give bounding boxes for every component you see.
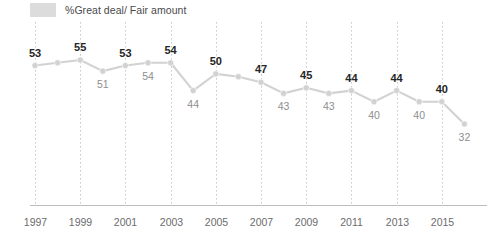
data-point-marker xyxy=(145,60,151,66)
plot-area: 535551535454445047434543444044404032 199… xyxy=(0,0,498,240)
data-point-label: 53 xyxy=(119,47,131,59)
x-tick-label: 2009 xyxy=(295,216,319,228)
data-point-marker xyxy=(77,57,83,63)
data-point-marker xyxy=(439,99,445,105)
data-point-label: 40 xyxy=(368,109,380,121)
data-point-marker xyxy=(303,85,309,91)
x-tick-label: 2001 xyxy=(114,216,138,228)
data-point-marker xyxy=(168,60,174,66)
data-point-label: 45 xyxy=(300,69,312,81)
x-tick-label: 2013 xyxy=(386,216,410,228)
data-point-label: 44 xyxy=(187,98,199,110)
data-point-label: 54 xyxy=(164,44,177,56)
data-point-marker xyxy=(281,90,287,96)
data-point-marker xyxy=(326,90,332,96)
x-tick-label: 1999 xyxy=(69,216,93,228)
data-point-marker xyxy=(371,99,377,105)
x-tick-label: 2015 xyxy=(431,216,455,228)
x-tick-label: 2003 xyxy=(160,216,184,228)
line-chart: %Great deal/ Fair amount 535551535454445… xyxy=(0,0,498,240)
data-point-marker xyxy=(32,62,38,68)
data-point-label: 54 xyxy=(142,70,154,82)
data-point-labels: 535551535454445047434543444044404032 xyxy=(29,41,471,143)
data-point-marker xyxy=(461,121,467,127)
data-point-marker xyxy=(122,62,128,68)
data-point-label: 44 xyxy=(390,72,403,84)
gridlines xyxy=(36,22,443,205)
series-path xyxy=(35,60,464,124)
data-point-label: 51 xyxy=(97,78,109,90)
series-line xyxy=(35,60,464,124)
data-point-marker xyxy=(258,79,264,85)
data-point-label: 53 xyxy=(29,47,41,59)
data-point-label: 50 xyxy=(210,55,222,67)
x-axis-tick-labels: 1997199920012003200520072009201120132015 xyxy=(24,216,455,228)
x-tick-label: 1997 xyxy=(24,216,48,228)
data-point-marker xyxy=(100,68,106,74)
x-tick-label: 2005 xyxy=(205,216,229,228)
data-point-marker xyxy=(348,88,354,94)
data-point-label: 43 xyxy=(278,100,290,112)
data-point-label: 55 xyxy=(74,41,86,53)
data-point-marker xyxy=(394,88,400,94)
data-point-marker xyxy=(190,88,196,94)
data-point-marker xyxy=(213,71,219,77)
data-point-label: 44 xyxy=(345,72,358,84)
data-point-marker xyxy=(235,74,241,80)
data-point-label: 40 xyxy=(413,109,425,121)
x-tick-label: 2011 xyxy=(340,216,363,228)
x-tick-label: 2007 xyxy=(250,216,274,228)
data-point-label: 32 xyxy=(459,131,471,143)
data-point-marker xyxy=(416,99,422,105)
data-point-label: 40 xyxy=(436,83,448,95)
data-point-marker xyxy=(55,60,61,66)
data-point-label: 43 xyxy=(323,100,335,112)
data-point-label: 47 xyxy=(255,63,267,75)
